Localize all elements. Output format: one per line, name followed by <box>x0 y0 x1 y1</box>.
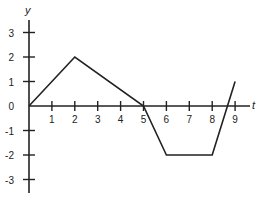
y-tick-label: -3 <box>5 175 14 186</box>
axes <box>29 20 250 193</box>
line-chart: 1234567893210-1-2-3 y t <box>0 0 261 207</box>
x-tick-label: 8 <box>209 114 215 125</box>
x-tick-label: 7 <box>187 114 193 125</box>
x-tick-label: 4 <box>118 114 124 125</box>
y-tick-label: 0 <box>8 101 14 112</box>
x-tick-label: 5 <box>141 114 147 125</box>
x-tick-label: 6 <box>164 114 170 125</box>
y-tick-label: 3 <box>8 28 14 39</box>
x-tick-label: 9 <box>232 114 238 125</box>
y-tick-label: 2 <box>8 52 14 63</box>
y-axis-label: y <box>24 4 32 16</box>
x-tick-label: 3 <box>95 114 101 125</box>
x-tick-label: 2 <box>72 114 78 125</box>
x-axis-label: t <box>252 99 256 111</box>
y-tick-label: -1 <box>5 126 14 137</box>
y-tick-label: -2 <box>5 150 14 161</box>
x-tick-label: 1 <box>49 114 55 125</box>
y-tick-label: 1 <box>8 77 14 88</box>
